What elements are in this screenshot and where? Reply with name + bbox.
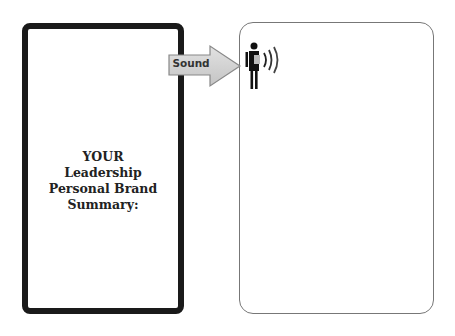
heading-line-4: Summary: — [28, 197, 178, 213]
arrow-label: Sound — [170, 57, 212, 69]
brand-summary-heading: YOUR Leadership Personal Brand Summary: — [28, 149, 178, 213]
heading-line-3: Personal Brand — [28, 181, 178, 197]
person-speaking-icon — [244, 41, 286, 93]
heading-line-2: Leadership — [28, 165, 178, 181]
brand-summary-box: YOUR Leadership Personal Brand Summary: — [22, 23, 184, 314]
heading-line-1: YOUR — [28, 149, 178, 165]
